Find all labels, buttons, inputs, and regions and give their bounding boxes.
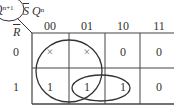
kmap-cell: 1 xyxy=(40,81,60,93)
kmap-cell: 0 xyxy=(149,46,169,58)
row-header: 0 xyxy=(6,46,26,58)
col-header: 00 xyxy=(40,20,60,32)
kmap-cell: 0 xyxy=(113,46,133,58)
kmap-cell: 1 xyxy=(113,81,133,93)
col-header: 01 xyxy=(77,20,97,32)
output-var-label: Qn+1 xyxy=(0,3,14,15)
col-header: 10 xyxy=(113,20,133,32)
kmap-cell: 0 xyxy=(149,81,169,93)
kmap-cell: × xyxy=(77,46,97,58)
row-header: 1 xyxy=(6,81,26,93)
row-var-label: R xyxy=(13,26,20,38)
kmap-cell: × xyxy=(40,46,60,58)
col-header: 11 xyxy=(149,20,169,32)
col-var-label: S Qn xyxy=(23,5,44,17)
kmap-cell: 1 xyxy=(77,81,97,93)
